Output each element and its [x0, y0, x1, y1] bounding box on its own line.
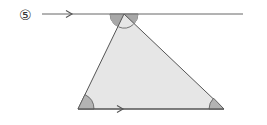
triangle	[78, 14, 224, 109]
triangle-parallel-lines-diagram	[0, 0, 267, 125]
